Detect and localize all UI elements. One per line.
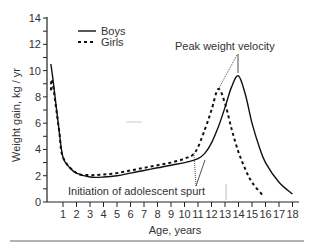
initiation-boys-pointer bbox=[196, 160, 205, 186]
peak-girls-pointer bbox=[219, 55, 237, 88]
y-tick-label: 12 bbox=[29, 38, 41, 50]
y-tick-label: 4 bbox=[35, 143, 41, 155]
y-tick-label: 8 bbox=[35, 91, 41, 103]
x-tick-label: 11 bbox=[192, 208, 203, 220]
y-axis: 02468101214 bbox=[29, 12, 47, 208]
girls-series-line bbox=[51, 79, 263, 195]
y-tick-label: 2 bbox=[35, 170, 41, 182]
x-tick-label: 13 bbox=[219, 208, 231, 220]
x-tick-label: 16 bbox=[259, 208, 271, 220]
x-axis: 123456789101112131415161718 bbox=[47, 202, 299, 220]
legend: Boys Girls bbox=[78, 25, 126, 48]
x-tick-label: 12 bbox=[205, 208, 217, 220]
x-tick-label: 17 bbox=[273, 208, 285, 220]
initiation-annotation: Initiation of adolescent spurt bbox=[68, 153, 205, 197]
peak-annotation: Peak weight velocity bbox=[175, 40, 275, 88]
x-axis-label: Age, years bbox=[149, 224, 202, 236]
initiation-label: Initiation of adolescent spurt bbox=[68, 185, 205, 197]
y-tick-label: 10 bbox=[29, 65, 41, 77]
y-tick-label: 0 bbox=[35, 196, 41, 208]
x-tick-label: 9 bbox=[168, 208, 174, 220]
chart-canvas: 02468101214 123456789101112131415161718 … bbox=[0, 0, 316, 251]
y-axis-label: Weight gain, kg / yr bbox=[10, 68, 22, 162]
x-tick-label: 4 bbox=[100, 208, 106, 220]
x-tick-label: 14 bbox=[232, 208, 244, 220]
x-tick-label: 7 bbox=[141, 208, 147, 220]
x-tick-label: 18 bbox=[286, 208, 298, 220]
x-tick-label: 1 bbox=[60, 208, 66, 220]
initiation-girls-pointer bbox=[194, 153, 196, 186]
x-tick-label: 5 bbox=[114, 208, 120, 220]
y-tick-label: 6 bbox=[35, 117, 41, 129]
x-tick-label: 3 bbox=[87, 208, 93, 220]
x-tick-label: 15 bbox=[246, 208, 258, 220]
x-tick-label: 2 bbox=[73, 208, 79, 220]
y-tick-label: 14 bbox=[29, 12, 41, 24]
legend-girls-label: Girls bbox=[101, 36, 124, 48]
peak-label: Peak weight velocity bbox=[175, 40, 275, 52]
x-tick-label: 8 bbox=[154, 208, 160, 220]
x-tick-label: 10 bbox=[178, 208, 190, 220]
x-tick-label: 6 bbox=[127, 208, 133, 220]
